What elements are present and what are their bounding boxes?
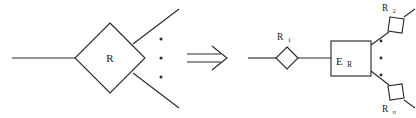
ellipsis-dot — [160, 38, 163, 41]
entity-box-to-r2-edge — [371, 32, 389, 45]
ellipsis-dot — [160, 57, 163, 60]
relationship-diamond-r1-label: R 1 — [277, 24, 291, 43]
right-side-group: R 1 E R R 2 — [248, 0, 415, 115]
relationship-diamond-r-label: R — [106, 52, 114, 64]
diagram-canvas: R R 1 E R — [0, 0, 416, 118]
rn-label-sub: n — [393, 108, 396, 115]
arrow-head — [212, 46, 227, 70]
ellipsis-dot — [160, 76, 163, 79]
entity-box-to-rn-edge — [371, 71, 389, 85]
r1-label-main: R — [277, 32, 284, 42]
left-side-group: R — [12, 9, 179, 108]
figure-root: R R 1 E R — [0, 0, 416, 118]
left-lower-right-edge — [133, 73, 179, 108]
r2-label-main: R — [382, 3, 389, 13]
entity-label-main: E — [336, 55, 343, 67]
left-upper-right-edge — [133, 9, 179, 44]
rn-outer-edge — [404, 100, 415, 108]
relationship-diamond-r1 — [276, 47, 298, 69]
r1-label-sub: 1 — [288, 36, 291, 43]
r2-label-sub: 2 — [393, 7, 396, 14]
ellipsis-dot — [380, 74, 383, 77]
left-vertical-ellipsis — [160, 38, 163, 79]
entity-label-sub: R — [347, 61, 352, 69]
rn-label-main: R — [382, 104, 389, 114]
r2-outer-edge — [404, 9, 415, 17]
implication-arrow — [187, 46, 227, 70]
ellipsis-dot — [380, 40, 383, 43]
relationship-diamond-r2-label: R 2 — [382, 0, 396, 14]
right-vertical-ellipsis — [380, 40, 383, 77]
ellipsis-dot — [380, 57, 383, 60]
